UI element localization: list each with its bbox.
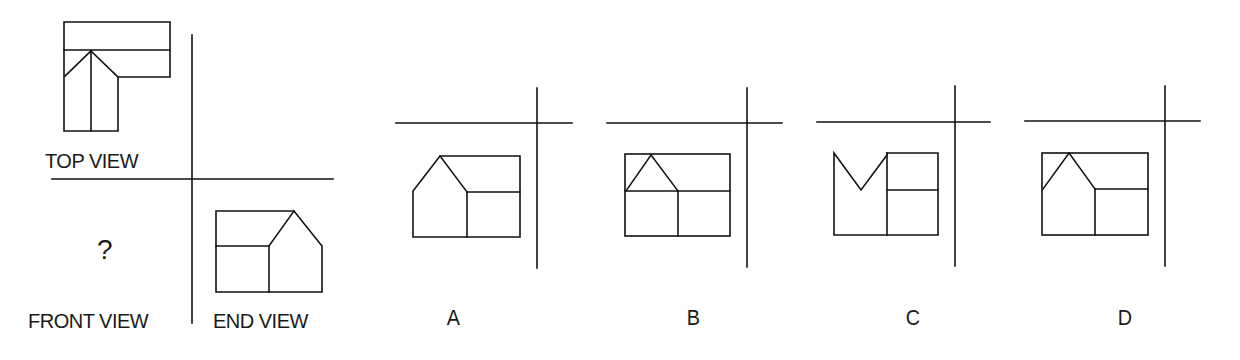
unknown-front-view-marker: ?	[97, 234, 113, 266]
option-d-drawing[interactable]	[1025, 86, 1200, 266]
front-view-label: FRONT VIEW	[28, 310, 148, 333]
option-b-label[interactable]: B	[687, 305, 700, 331]
view-dividers	[52, 35, 333, 323]
option-c-drawing[interactable]	[817, 86, 990, 266]
option-a-drawing[interactable]	[396, 88, 572, 268]
option-a-label[interactable]: A	[447, 305, 460, 331]
option-b-drawing[interactable]	[607, 88, 782, 267]
option-d-label[interactable]: D	[1118, 305, 1132, 331]
top-view-label: TOP VIEW	[45, 150, 138, 173]
end-view-drawing	[216, 211, 322, 292]
orthographic-diagram	[0, 0, 1240, 360]
option-c-label[interactable]: C	[906, 305, 920, 331]
end-view-label: END VIEW	[213, 310, 308, 333]
top-view-drawing	[64, 22, 170, 131]
